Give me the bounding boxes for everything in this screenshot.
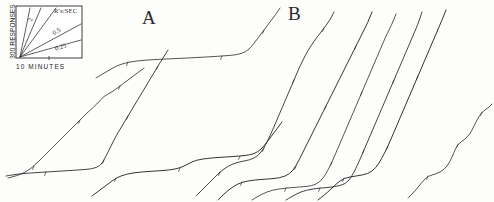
reinforcement-pip <box>221 56 222 59</box>
rate-calibration-inset: 300 RESPONSES 10 MINUTES R's/SEC 2 0.5 0… <box>4 2 96 74</box>
panel-label-a: A <box>142 8 156 27</box>
record-trace <box>318 10 446 200</box>
cumulative-record-figure: A B 300 RESPONSES 10 MINUTES R's/SEC 2 0… <box>0 0 494 202</box>
legend-y-axis-label: 300 RESPONSES <box>9 4 16 60</box>
record-trace <box>196 12 334 196</box>
legend-units-label: R's/SEC <box>54 7 77 14</box>
reinforcement-pip <box>361 92 362 95</box>
record-trace <box>286 12 422 200</box>
legend-x-axis-label: 10 MINUTES <box>16 63 65 70</box>
record-trace <box>92 122 282 196</box>
record-trace <box>252 14 396 200</box>
record-trace <box>218 12 372 200</box>
record-trace <box>408 104 492 198</box>
panel-label-b: B <box>288 4 301 23</box>
record-trace <box>96 8 280 78</box>
